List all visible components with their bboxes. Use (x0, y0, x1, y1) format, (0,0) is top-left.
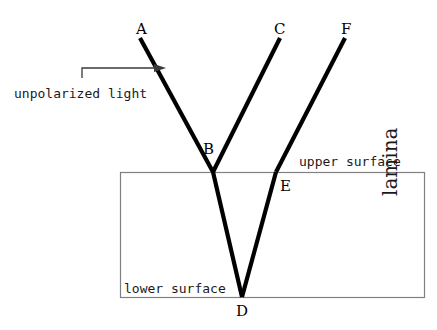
reflected-ray-BC (213, 38, 280, 172)
lower-surface-label: lower surface (124, 282, 226, 295)
refracted-ray-BD (213, 172, 242, 297)
point-label-d: D (236, 304, 248, 319)
internal-ray-DE (242, 172, 276, 297)
unpolarized-light-label: unpolarized light (14, 87, 147, 100)
point-label-c: C (274, 22, 285, 37)
point-label-a: A (136, 22, 147, 37)
optics-diagram: A C F B E D unpolarized light upper surf… (0, 0, 437, 330)
point-label-f: F (341, 22, 351, 37)
lamina-label: lamina (380, 128, 400, 197)
point-label-b: B (203, 142, 214, 157)
emergent-ray-EF (276, 38, 345, 172)
point-label-e: E (280, 179, 291, 194)
